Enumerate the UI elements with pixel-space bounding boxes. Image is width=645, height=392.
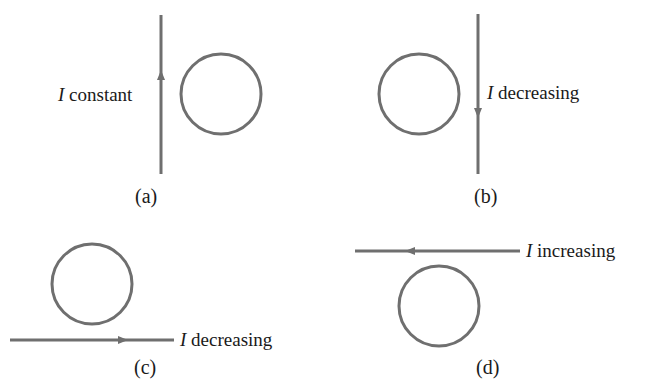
caption-c: (c) [134,356,156,379]
loop-b [379,54,459,134]
caption-b: (b) [474,185,497,208]
label-c: I decreasing [179,329,273,350]
panel-b: I decreasing (b) [379,14,580,208]
label-a: I constant [57,84,133,105]
arrow-left-icon [405,247,415,255]
panel-c: I decreasing (c) [10,244,273,379]
label-d: I increasing [525,240,616,261]
arrow-right-icon [118,336,128,344]
loop-c [52,244,132,324]
panel-a: I constant (a) [57,15,261,208]
arrow-up-icon [157,70,165,80]
figure: I constant (a) I decreasing (b) I decrea… [0,0,645,392]
caption-a: (a) [135,185,157,208]
label-b: I decreasing [486,82,580,103]
loop-d [399,266,479,346]
arrow-down-icon [474,108,482,118]
panel-d: I increasing (d) [355,240,616,379]
caption-d: (d) [476,356,499,379]
loop-a [181,54,261,134]
